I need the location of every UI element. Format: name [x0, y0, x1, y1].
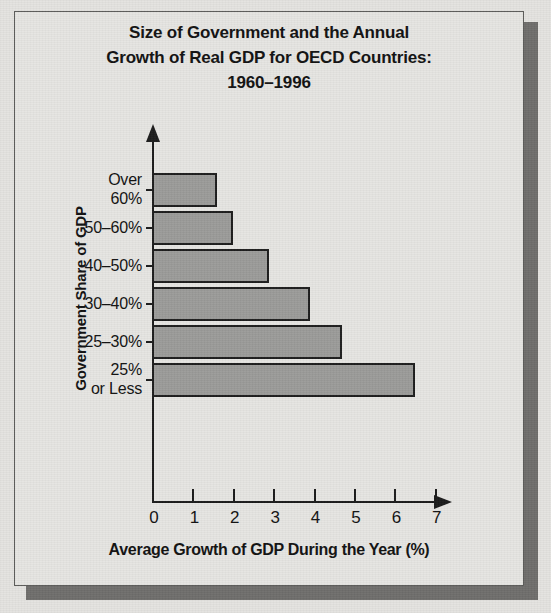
x-axis-line [152, 501, 436, 503]
bar-25-or-less [152, 363, 415, 397]
bar-50-60 [152, 211, 233, 245]
y-tick-label-25-30: 25–30% [0, 332, 142, 351]
x-tick-label-1: 1 [182, 508, 206, 528]
x-tick-label-3: 3 [263, 508, 287, 528]
y-tick-label-30-40-line-1: 30–40% [0, 294, 142, 313]
bar-40-50 [152, 249, 269, 283]
y-tick-label-25-or-less: 25% or Less [0, 360, 142, 398]
x-tick-2 [233, 489, 235, 501]
x-tick-label-5: 5 [344, 508, 368, 528]
x-tick-4 [314, 489, 316, 501]
y-tick-50-60 [146, 227, 154, 229]
x-tick-label-2: 2 [223, 508, 247, 528]
x-tick-label-6: 6 [384, 508, 408, 528]
y-tick-label-40-50-line-1: 40–50% [0, 256, 142, 275]
x-tick-3 [273, 489, 275, 501]
x-tick-label-7: 7 [425, 508, 449, 528]
y-tick-label-50-60: 50–60% [0, 218, 142, 237]
x-tick-1 [192, 489, 194, 501]
bar-over-60 [152, 173, 217, 207]
y-tick-label-30-40: 30–40% [0, 294, 142, 313]
y-tick-label-50-60-line-1: 50–60% [0, 218, 142, 237]
y-tick-25-or-less [146, 379, 154, 381]
y-tick-label-25-or-less-line-2: or Less [0, 379, 142, 398]
y-tick-label-over-60: Over 60% [0, 170, 142, 208]
bar-25-30 [152, 325, 342, 359]
x-tick-6 [394, 489, 396, 501]
y-tick-30-40 [146, 303, 154, 305]
y-tick-label-25-or-less-line-1: 25% [0, 360, 142, 379]
y-tick-over-60 [146, 189, 154, 191]
y-tick-40-50 [146, 265, 154, 267]
y-tick-label-over-60-line-2: 60% [0, 189, 142, 208]
plot-area: Government Share of GDP Over 60% 50–60% … [0, 0, 551, 613]
y-tick-label-over-60-line-1: Over [0, 170, 142, 189]
bar-30-40 [152, 287, 310, 321]
x-tick-0 [152, 489, 154, 501]
x-tick-label-0: 0 [142, 508, 166, 528]
y-tick-25-30 [146, 341, 154, 343]
x-tick-7 [435, 489, 437, 501]
x-tick-label-4: 4 [304, 508, 328, 528]
y-tick-label-40-50: 40–50% [0, 256, 142, 275]
y-axis-arrowhead-icon [146, 124, 160, 142]
figure-canvas: Size of Government and the Annual Growth… [0, 0, 551, 613]
x-tick-5 [354, 489, 356, 501]
y-tick-label-25-30-line-1: 25–30% [0, 332, 142, 351]
x-axis-title: Average Growth of GDP During the Year (%… [26, 541, 512, 559]
